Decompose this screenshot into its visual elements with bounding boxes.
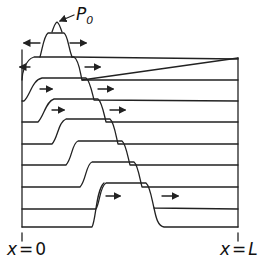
peak-label: P0 — [76, 4, 93, 27]
profile-4 — [22, 119, 238, 144]
profile-2 — [22, 78, 238, 101]
peak-pointer-arrow-icon — [60, 15, 74, 21]
left-boundary-label: x=0 — [6, 239, 46, 259]
profile-8 — [22, 183, 104, 227]
right-boundary-label: x=L — [219, 239, 258, 259]
diffusion-profile-diagram: P0 x=0 x=L — [0, 0, 265, 269]
initial-peak — [52, 22, 62, 32]
profile-1 — [22, 57, 238, 80]
profile-8-right — [154, 208, 238, 227]
profile-1-right — [72, 57, 238, 59]
profile-0 — [40, 33, 72, 57]
